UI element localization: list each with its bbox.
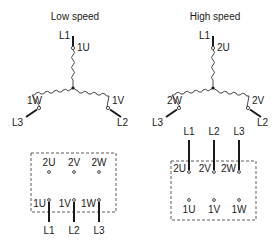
terminal-1w [37, 106, 40, 109]
terminal-2u [48, 171, 51, 174]
terminal-1v [213, 199, 216, 202]
terminal-1u [48, 199, 51, 202]
terminal-1u [71, 46, 74, 49]
terminal-1v [73, 199, 76, 202]
terminal-1v [106, 106, 109, 109]
coil-v [73, 88, 109, 107]
terminal-2w [177, 106, 180, 109]
terminal-2w [98, 171, 101, 174]
star-top-terminal-label: 2U [217, 42, 230, 53]
supply-line-label: L3 [233, 126, 245, 137]
star-right-terminal-label: 1V [112, 95, 125, 106]
high-speed-diagram: High speed L1 2U 2W L3 2V L2 L1 L2 L3 2U… [152, 11, 269, 220]
box-terminal-label: 2W [221, 163, 237, 174]
box-terminal-label: 2V [68, 157, 81, 168]
terminal-1u [188, 199, 191, 202]
star-right-line-label: L2 [117, 117, 129, 128]
terminal-2u [188, 171, 191, 174]
box-terminal-label: 2U [173, 163, 186, 174]
lead-l3 [166, 110, 177, 118]
terminal-2u [211, 46, 214, 49]
box-terminal-label: 1V [59, 198, 72, 209]
terminal-2v [246, 106, 249, 109]
terminal-2w [238, 171, 241, 174]
box-terminal-label: 2W [92, 157, 108, 168]
star-right-line-label: L2 [257, 117, 269, 128]
star-top-terminal-label: 1U [77, 42, 90, 53]
terminal-2v [73, 171, 76, 174]
coil-u [212, 50, 215, 88]
star-left-line-label: L3 [152, 117, 164, 128]
supply-line-label: L3 [93, 225, 105, 236]
star-right-terminal-label: 2V [252, 95, 265, 106]
terminal-2v [213, 171, 216, 174]
supply-line-label: L1 [183, 126, 195, 137]
supply-line-label: L1 [43, 225, 55, 236]
high-speed-title: High speed [190, 11, 241, 22]
star-left-terminal-label: 1W [27, 95, 43, 106]
box-terminal-label: 1V [208, 204, 221, 215]
box-terminal-label: 1W [81, 198, 97, 209]
terminal-1w [98, 199, 101, 202]
supply-line-label: L2 [68, 225, 80, 236]
coil-v [213, 88, 249, 107]
terminal-1w [238, 199, 241, 202]
supply-line-label: L2 [208, 126, 220, 137]
star-left-line-label: L3 [12, 117, 24, 128]
star-left-terminal-label: 2W [167, 95, 183, 106]
low-speed-title: Low speed [51, 11, 99, 22]
low-speed-diagram: Low speed L1 1U 1W L3 1V L2 2U 2V 2W 1U … [12, 11, 129, 236]
coil-u [72, 50, 75, 88]
star-top-line-label: L1 [199, 30, 211, 41]
box-terminal-label: 1U [183, 204, 196, 215]
lead-l3 [26, 110, 37, 118]
box-terminal-label: 2V [199, 163, 212, 174]
motor-connection-diagram: Low speed L1 1U 1W L3 1V L2 2U 2V 2W 1U … [0, 0, 280, 245]
lead-l2 [110, 110, 121, 118]
star-top-line-label: L1 [59, 30, 71, 41]
box-terminal-label: 2U [43, 157, 56, 168]
box-terminal-label: 1U [33, 198, 46, 209]
lead-l2 [250, 110, 261, 118]
box-terminal-label: 1W [232, 204, 248, 215]
